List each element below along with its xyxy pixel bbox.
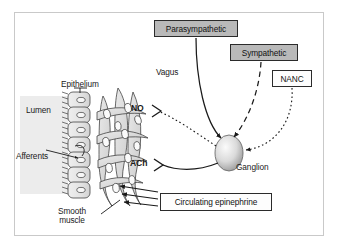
diagram-canvas — [0, 0, 339, 249]
smooth-muscle-leader-line — [101, 200, 120, 214]
box-nanc-label: NANC — [280, 74, 303, 84]
vagus-nerve-path — [196, 38, 221, 138]
box-circulating-epinephrine-label: Circulating epinephrine — [175, 197, 258, 207]
nanc-nerve-path — [246, 88, 292, 150]
figure-root: Parasympathetic Sympathetic NANC Circula… — [0, 0, 339, 249]
ach-synapse-terminal — [154, 159, 163, 171]
label-vagus: Vagus — [156, 68, 178, 77]
box-sympathetic[interactable]: Sympathetic — [230, 44, 298, 61]
box-circulating-epinephrine[interactable]: Circulating epinephrine — [160, 193, 272, 211]
label-smooth-muscle: Smooth muscle — [58, 207, 86, 226]
epinephrine-arrows — [120, 186, 158, 206]
label-lumen: Lumen — [26, 106, 51, 115]
no-synapse-terminal — [152, 105, 161, 117]
label-ganglion: Ganglion — [236, 163, 268, 172]
label-smooth-muscle-line2: muscle — [58, 216, 86, 225]
box-sympathetic-label: Sympathetic — [242, 48, 287, 58]
sympathetic-nerve-path — [234, 62, 261, 137]
box-parasympathetic-label: Parasympathetic — [166, 24, 226, 34]
label-afferents: Afferents — [16, 152, 48, 161]
box-parasympathetic[interactable]: Parasympathetic — [154, 20, 238, 37]
box-nanc[interactable]: NANC — [272, 70, 312, 87]
ach-nerve-path — [163, 163, 218, 169]
label-no: NO — [131, 104, 144, 114]
label-epithelium: Epithelium — [61, 80, 99, 89]
label-ach: ACh — [130, 159, 147, 169]
no-nerve-path — [160, 112, 216, 146]
